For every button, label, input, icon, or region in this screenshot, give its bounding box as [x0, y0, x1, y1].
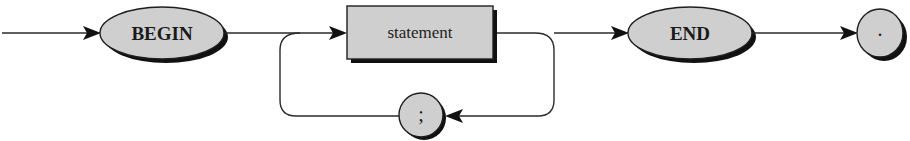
entry-edge — [2, 26, 101, 40]
statement-to-end-edge — [554, 26, 629, 40]
syntax-diagram: BEGIN statement ; END — [0, 0, 910, 141]
semicolon-node: ; — [399, 93, 446, 140]
semicolon-label: ; — [418, 103, 424, 125]
statement-node: statement — [347, 6, 497, 63]
begin-label: BEGIN — [131, 23, 193, 44]
period-label: . — [878, 18, 883, 40]
begin-to-statement-edge — [225, 26, 347, 40]
end-label: END — [670, 23, 710, 44]
statement-label: statement — [387, 23, 452, 42]
end-node: END — [628, 7, 756, 63]
begin-node: BEGIN — [100, 7, 228, 63]
end-to-period-edge — [752, 26, 858, 40]
period-node: . — [857, 9, 907, 61]
